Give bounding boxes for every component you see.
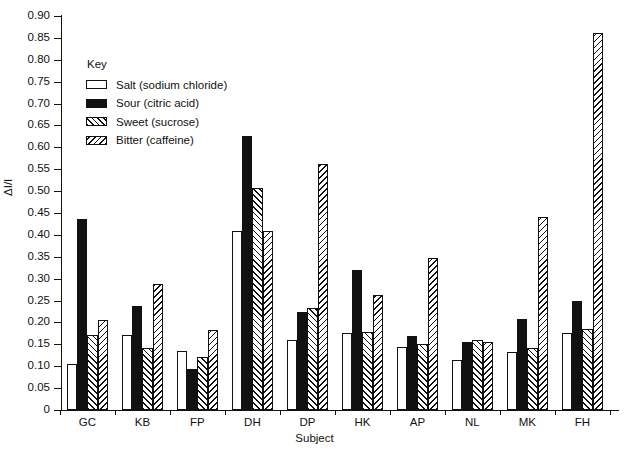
bar-gc-sour [77,219,87,410]
x-group-label-hk: HK [342,416,382,428]
bar-gc-sweet [87,335,97,410]
bar-mk-bitter [538,217,548,410]
legend-item-salt: Salt (sodium chloride) [86,76,227,93]
bar-chart: ΔI/I 0.900.850.800.750.700.650.600.550.5… [0,0,629,449]
bar-nl-bitter [483,342,493,410]
bar-nl-salt [452,360,462,410]
legend-swatch-sour-icon [86,99,107,108]
legend: Key Salt (sodium chloride)Sour (citric a… [86,58,227,150]
y-tick-label: 0.25 [0,295,50,306]
y-tick-label: 0.20 [0,316,50,327]
legend-item-sweet: Sweet (sucrose) [86,113,227,130]
x-group-label-fh: FH [562,416,602,428]
legend-title: Key [86,58,227,70]
legend-label-sour: Sour (citric acid) [116,97,199,109]
y-tick-label: 0.75 [0,76,50,87]
x-tick-mark [335,410,336,415]
bar-fp-salt [177,351,187,410]
x-tick-mark [280,410,281,415]
x-tick-mark [610,410,611,415]
bar-hk-sweet [362,332,372,410]
bar-kb-sweet [142,348,152,410]
bar-mk-sour [517,319,527,410]
bar-kb-bitter [153,284,163,410]
x-tick-mark [445,410,446,415]
y-tick-label: 0.50 [0,185,50,196]
bar-dp-salt [287,340,297,410]
bar-fh-bitter [593,33,603,410]
bar-hk-sour [352,270,362,410]
legend-label-salt: Salt (sodium chloride) [116,79,227,91]
y-tick-label: 0.80 [0,54,50,65]
bar-kb-sour [132,306,142,410]
bar-ap-sweet [417,344,427,410]
bar-dp-bitter [318,164,328,410]
legend-swatch-sweet-icon [86,117,107,126]
y-tick-label: 0 [0,404,50,415]
bar-dp-sour [297,312,307,411]
x-tick-mark [500,410,501,415]
legend-entries: Salt (sodium chloride)Sour (citric acid)… [86,76,227,149]
bar-gc-bitter [98,320,108,410]
bar-fh-salt [562,333,572,410]
x-group-label-gc: GC [67,416,107,428]
y-tick-label: 0.85 [0,32,50,43]
y-tick-label: 0.45 [0,207,50,218]
bar-nl-sweet [472,340,482,410]
x-group-label-mk: MK [507,416,547,428]
y-tick-label: 0.35 [0,251,50,262]
y-tick-label: 0.70 [0,98,50,109]
x-tick-mark [60,410,61,415]
x-group-label-kb: KB [122,416,162,428]
y-tick-label: 0.10 [0,360,50,371]
x-tick-mark [115,410,116,415]
bar-fp-bitter [208,330,218,410]
legend-item-sour: Sour (citric acid) [86,95,227,112]
bar-hk-bitter [373,295,383,410]
x-tick-mark [555,410,556,415]
bar-mk-salt [507,352,517,410]
bar-mk-sweet [527,348,537,410]
bar-ap-sour [407,336,417,410]
x-tick-mark [170,410,171,415]
legend-swatch-bitter-icon [86,136,107,145]
bar-kb-salt [122,335,132,410]
x-group-label-dh: DH [232,416,272,428]
legend-swatch-salt-icon [86,80,107,89]
y-tick-label: 0.65 [0,119,50,130]
bar-fp-sweet [197,357,207,410]
bar-dh-sweet [252,188,262,410]
bar-ap-salt [397,347,407,410]
x-group-label-dp: DP [287,416,327,428]
x-group-label-nl: NL [452,416,492,428]
y-tick-label: 0.15 [0,338,50,349]
bar-nl-sour [462,342,472,410]
legend-item-bitter: Bitter (caffeine) [86,132,227,149]
bar-hk-salt [342,333,352,410]
y-tick-label: 0.55 [0,163,50,174]
y-tick-label: 0.05 [0,382,50,393]
legend-label-sweet: Sweet (sucrose) [116,116,199,128]
bar-ap-bitter [428,258,438,410]
legend-label-bitter: Bitter (caffeine) [116,134,194,146]
y-tick-label: 0.40 [0,229,50,240]
x-group-label-ap: AP [397,416,437,428]
bar-dh-sour [242,136,252,410]
bar-fh-sour [572,301,582,410]
bar-fp-sour [187,369,197,410]
bar-dh-salt [232,231,242,410]
bar-dh-bitter [263,231,273,410]
bar-gc-salt [67,364,77,410]
x-axis-title: Subject [0,432,629,444]
y-tick-label: 0.30 [0,273,50,284]
y-tick-label: 0.60 [0,141,50,152]
y-tick-label: 0.90 [0,10,50,21]
bar-fh-sweet [582,329,592,410]
bar-dp-sweet [307,308,317,410]
x-group-label-fp: FP [177,416,217,428]
x-tick-mark [225,410,226,415]
x-tick-mark [390,410,391,415]
